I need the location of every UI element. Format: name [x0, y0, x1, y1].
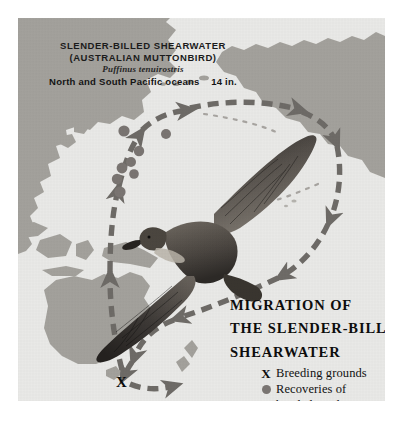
legend-item-breeding: X Breeding grounds: [256, 366, 385, 381]
species-header: SLENDER-BILLED SHEARWATER (AUSTRALIAN MU…: [36, 40, 250, 88]
shearwater-migration-figure: X SLENDER-BILLED SHEARWATER (AUSTRALIAN …: [0, 0, 402, 424]
breeding-x-icon: X: [256, 366, 276, 381]
bird-bill: [122, 240, 141, 250]
bird-head: [139, 227, 166, 250]
bird-eye: [148, 236, 151, 239]
species-range-and-size: North and South Pacific oceans 14 in.: [36, 76, 250, 88]
bird-right-wing: [214, 135, 317, 234]
species-alt-name: (AUSTRALIAN MUTTONBIRD): [36, 52, 250, 64]
legend-item-recoveries: Recoveries of: [256, 382, 385, 397]
map-title-line-2: THE SLENDER-BILLED: [230, 317, 385, 340]
legend-breeding-label: Breeding grounds: [276, 366, 367, 381]
species-scientific-name: Puffinus tenuirostris: [36, 64, 250, 76]
bird-body: [166, 221, 238, 283]
recovery-dot-icon: [256, 382, 276, 397]
map-title-line-1: MIGRATION OF: [230, 294, 385, 317]
legend-recoveries-label: Recoveries of: [276, 382, 346, 397]
map-legend: X Breeding grounds Recoveries of banded …: [256, 366, 385, 401]
map-title-line-3: SHEARWATER: [230, 341, 385, 364]
legend-recoveries-label-2: banded nestlings: [276, 398, 385, 401]
map-plate: X SLENDER-BILLED SHEARWATER (AUSTRALIAN …: [18, 18, 385, 401]
map-title: MIGRATION OF THE SLENDER-BILLED SHEARWAT…: [230, 294, 385, 364]
breeding-grounds-marker: X: [116, 375, 127, 390]
species-common-name: SLENDER-BILLED SHEARWATER: [36, 40, 250, 52]
